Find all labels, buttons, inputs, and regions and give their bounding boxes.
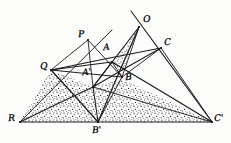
geometry-figure: POCQABA'RB'C' [0, 0, 231, 143]
vertex-label-P: P [78, 30, 85, 39]
vertex-dot-C1 [211, 121, 213, 123]
line-P-to-A1 [88, 40, 93, 87]
vertex-label-A1: A' [82, 68, 92, 78]
vertex-label-A: A [103, 43, 110, 52]
vertex-dot-Q [50, 69, 52, 71]
vertex-dot-A [111, 61, 113, 63]
vertex-label-O: O [143, 15, 151, 24]
vertex-dot-O [138, 26, 140, 28]
vertex-dot-A1 [92, 86, 94, 88]
vertex-label-C: C [164, 38, 172, 47]
vertex-label-B: B [125, 73, 132, 82]
vertex-dot-R [19, 121, 21, 123]
vertex-label-Q: Q [40, 62, 48, 71]
vertex-dot-B [121, 76, 123, 78]
vertex-dot-C [160, 47, 162, 49]
vertex-label-R: R [8, 114, 15, 123]
figure-canvas [0, 0, 231, 143]
vertex-dot-B1 [97, 121, 99, 123]
vertex-label-B1: B' [92, 126, 102, 136]
vertex-label-C1: C' [214, 114, 224, 124]
vertex-dot-P [87, 39, 89, 41]
